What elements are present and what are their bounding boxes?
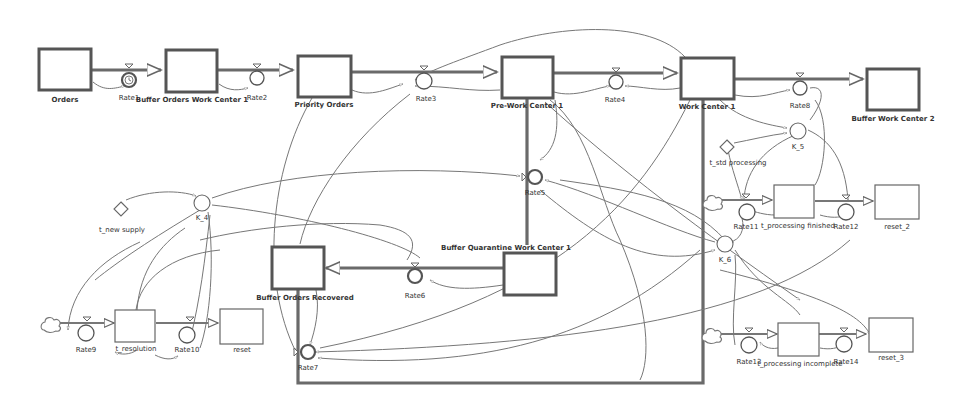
svg-text:Buffer Quarantine Work Center: Buffer Quarantine Work Center 1 bbox=[441, 244, 571, 252]
constant-t-std-processing[interactable]: t_std processing bbox=[709, 140, 766, 167]
stock-orders[interactable]: Orders bbox=[39, 49, 91, 104]
stock-buffer-work-center-2[interactable]: Buffer Work Center 2 bbox=[851, 69, 934, 123]
svg-text:Rate7: Rate7 bbox=[298, 364, 319, 372]
svg-text:Buffer Work Center 2: Buffer Work Center 2 bbox=[851, 115, 934, 123]
svg-text:Orders: Orders bbox=[52, 96, 79, 104]
svg-text:Rate8: Rate8 bbox=[790, 102, 811, 110]
stock-t-processing-incomplete[interactable]: t_processing incomplete bbox=[757, 323, 842, 368]
svg-text:Rate6: Rate6 bbox=[405, 292, 426, 300]
svg-text:Rate2: Rate2 bbox=[247, 94, 268, 102]
svg-text:t_resolution: t_resolution bbox=[116, 345, 157, 353]
svg-text:Rate4: Rate4 bbox=[605, 96, 626, 104]
cloud-source-icon bbox=[702, 329, 721, 344]
stock-priority-orders[interactable]: Priority Orders bbox=[295, 56, 354, 109]
svg-text:Rate11: Rate11 bbox=[734, 223, 759, 231]
stock-buffer-orders-work-center-1[interactable]: Buffer Orders Work Center 1 bbox=[136, 50, 249, 104]
cloud-source-icon bbox=[41, 318, 60, 333]
svg-text:Rate13: Rate13 bbox=[737, 358, 762, 366]
stock-work-center-1[interactable]: Work Center 1 bbox=[679, 58, 736, 111]
svg-text:t_std processing: t_std processing bbox=[709, 159, 766, 167]
svg-text:t_processing incomplete: t_processing incomplete bbox=[757, 360, 842, 368]
svg-text:Priority Orders: Priority Orders bbox=[295, 101, 354, 109]
svg-text:Buffer Orders Work Center 1: Buffer Orders Work Center 1 bbox=[136, 96, 249, 104]
svg-text:Rate1: Rate1 bbox=[119, 94, 140, 102]
svg-text:Rate12: Rate12 bbox=[834, 223, 859, 231]
aux-k5[interactable]: K_5 bbox=[790, 123, 806, 151]
svg-text:Rate9: Rate9 bbox=[76, 346, 97, 354]
svg-text:Buffer Orders Recovered: Buffer Orders Recovered bbox=[256, 294, 353, 302]
svg-text:K_5: K_5 bbox=[792, 143, 805, 151]
stock-reset-2[interactable]: reset_2 bbox=[875, 185, 919, 231]
stock-t-processing-finished[interactable]: t_processing finished bbox=[761, 185, 835, 230]
constant-t-new-supply[interactable]: t_new supply bbox=[99, 202, 145, 234]
svg-text:Rate10: Rate10 bbox=[175, 346, 200, 354]
svg-text:Work Center 1: Work Center 1 bbox=[679, 103, 736, 111]
svg-text:reset_3: reset_3 bbox=[878, 354, 904, 362]
svg-text:Rate14: Rate14 bbox=[834, 358, 860, 366]
svg-text:reset_2: reset_2 bbox=[884, 223, 910, 231]
aux-k6[interactable]: K_6 bbox=[717, 236, 733, 264]
cloud-source-icon bbox=[703, 196, 722, 211]
stock-reset[interactable]: reset bbox=[220, 309, 263, 354]
svg-text:reset: reset bbox=[233, 346, 251, 354]
svg-text:K_6: K_6 bbox=[719, 256, 732, 264]
stock-t-resolution[interactable]: t_resolution bbox=[115, 310, 157, 353]
svg-text:Rate5: Rate5 bbox=[525, 189, 546, 197]
svg-text:t_new supply: t_new supply bbox=[99, 226, 145, 234]
stock-pre-work-center-1[interactable]: Pre-Work Center 1 bbox=[491, 57, 564, 110]
svg-text:Pre-Work Center 1: Pre-Work Center 1 bbox=[491, 102, 564, 110]
stock-buffer-orders-recovered[interactable]: Buffer Orders Recovered bbox=[256, 247, 353, 302]
svg-text:K_4: K_4 bbox=[196, 214, 209, 222]
svg-text:t_processing finished: t_processing finished bbox=[761, 222, 835, 230]
svg-text:Rate3: Rate3 bbox=[416, 95, 437, 103]
aux-k4[interactable]: K_4 bbox=[194, 195, 210, 222]
stock-reset-3[interactable]: reset_3 bbox=[869, 318, 913, 362]
stock-flow-diagram: Orders Buffer Orders Work Center 1 Prior… bbox=[0, 0, 961, 403]
